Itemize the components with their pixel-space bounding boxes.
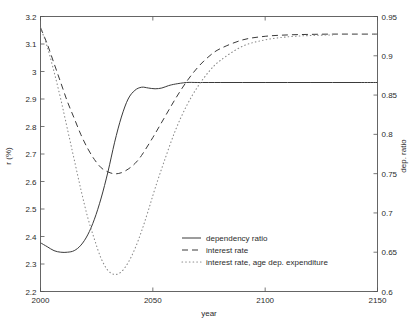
- y-axis-right-title: dep. ratio: [399, 139, 408, 173]
- chart-container: 2.22.32.42.52.62.72.82.933.13.2 0.60.650…: [0, 0, 416, 328]
- y-tick-label-left: 2.6: [25, 178, 37, 187]
- y-axis-left-title: r (%): [4, 147, 13, 165]
- y-tick-label-left: 2.8: [25, 123, 37, 132]
- series-path-2: [41, 28, 333, 275]
- y-tick-label-left: 2.5: [25, 205, 37, 214]
- y-tick-label-right: 0.85: [382, 91, 398, 100]
- chart-legend: dependency ratiointerest rateinterest ra…: [182, 234, 328, 267]
- legend-label-2: interest rate, age dep. expenditure: [206, 258, 328, 267]
- y-tick-label-right: 0.8: [382, 130, 394, 139]
- y-tick-label-left: 3.2: [25, 13, 37, 22]
- y-tick-label-right: 0.65: [382, 248, 398, 257]
- y-tick-label-right: 0.9: [382, 52, 394, 61]
- dependency-ratio-interest-rate-chart: 2.22.32.42.52.62.72.82.933.13.2 0.60.650…: [0, 0, 416, 328]
- y-axis-left-ticks: [41, 17, 45, 292]
- x-axis-top-ticks: [41, 17, 378, 21]
- x-tick-label: 2100: [256, 296, 274, 305]
- y-tick-label-left: 2.4: [25, 233, 37, 242]
- x-tick-label: 2050: [144, 296, 162, 305]
- y-axis-right-labels: 0.60.650.70.750.80.850.90.95: [382, 13, 398, 297]
- legend-label-1: interest rate: [206, 246, 249, 255]
- x-tick-label: 2150: [369, 296, 387, 305]
- series-path-0: [41, 82, 378, 252]
- x-axis-labels: 2000205021002150: [32, 296, 387, 305]
- y-tick-label-right: 0.7: [382, 209, 394, 218]
- y-tick-label-right: 0.95: [382, 13, 398, 22]
- y-axis-right-ticks: [374, 17, 378, 292]
- x-axis-title: year: [201, 309, 217, 318]
- y-tick-label-left: 2.9: [25, 95, 37, 104]
- y-tick-label-left: 2.7: [25, 150, 37, 159]
- x-axis-ticks: [41, 288, 378, 292]
- legend-label-0: dependency ratio: [206, 234, 268, 243]
- y-tick-label-left: 2.3: [25, 260, 37, 269]
- y-tick-label-right: 0.75: [382, 170, 398, 179]
- y-tick-label-left: 3.1: [25, 40, 37, 49]
- series-path-1: [41, 28, 378, 174]
- y-tick-label-left: 3: [32, 68, 37, 77]
- y-axis-left-labels: 2.22.32.42.52.62.72.82.933.13.2: [25, 13, 37, 297]
- x-tick-label: 2000: [32, 296, 50, 305]
